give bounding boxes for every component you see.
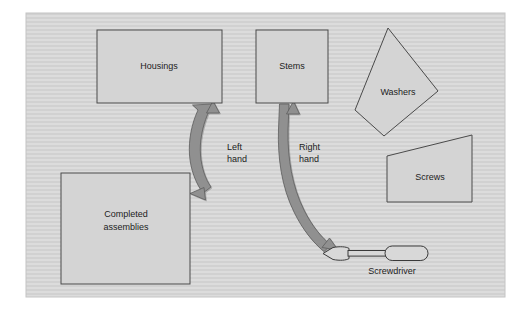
assembly-workplace-diagram: Housings Stems Washers Screws Completed …	[0, 0, 527, 313]
screwdriver-shaft-icon	[348, 251, 387, 257]
screwdriver-label: Screwdriver	[368, 266, 416, 276]
right-hand-label-line2: hand	[299, 154, 319, 164]
left-hand-label-line1: Left	[227, 142, 243, 152]
node-stems[interactable]: Stems	[256, 30, 328, 103]
stems-label: Stems	[279, 61, 305, 71]
housings-label: Housings	[140, 61, 178, 71]
washers-label: Washers	[380, 87, 416, 97]
node-housings[interactable]: Housings	[97, 30, 222, 103]
left-hand-label-line2: hand	[227, 154, 247, 164]
right-hand-label-line1: Right	[299, 142, 321, 152]
completed-assemblies-label-line2: assemblies	[103, 222, 149, 232]
screws-label: Screws	[415, 172, 445, 182]
diagram-canvas: Housings Stems Washers Screws Completed …	[0, 0, 527, 313]
completed-assemblies-label-line1: Completed	[104, 209, 148, 219]
screwdriver-handle-icon	[385, 246, 428, 261]
node-completed-assemblies[interactable]: Completed assemblies	[61, 173, 190, 284]
